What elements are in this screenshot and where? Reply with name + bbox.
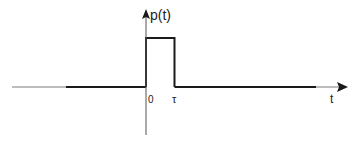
x-axis-label: t [330,92,334,106]
tick-label-tau: τ [172,93,177,105]
y-axis-label: p(t) [150,7,171,23]
tick-label-zero: 0 [148,94,154,105]
pulse-waveform [146,38,175,87]
pulse-diagram: p(t) 0 τ t [0,0,354,153]
